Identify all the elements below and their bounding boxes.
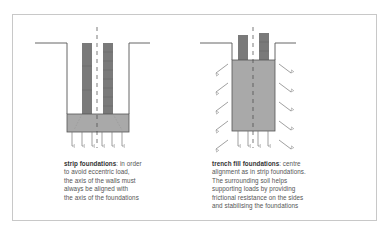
strip-foundation-diagram [35,27,150,148]
right-wall [259,33,269,60]
trench-outline-right [275,43,296,60]
trench-fill-foundations-caption: trench fill foundations: centre alignmen… [212,160,306,210]
foundation-diagrams [0,0,390,233]
trench-outline [35,43,67,114]
side-friction-arrows-right [279,64,291,149]
right-wall [103,43,113,114]
caption-title: strip foundations [64,160,116,167]
left-wall [82,43,92,114]
caption-title: trench fill foundations [212,160,279,167]
trench-fill-foundation-diagram [200,27,296,149]
strip-foundations-caption: strip foundations: in order to avoid ecc… [64,160,142,202]
trench-outline-right [129,43,150,114]
left-wall [238,35,248,60]
trench-fill-concrete [232,60,275,131]
strip-footing [67,114,129,132]
side-friction-arrows-left [216,64,228,149]
trench-outline [200,43,232,60]
